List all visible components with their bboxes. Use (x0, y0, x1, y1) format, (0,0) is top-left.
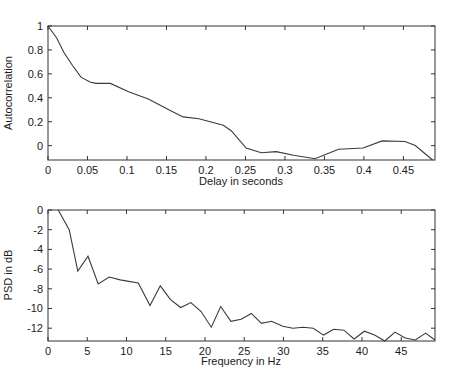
x-tick-label: 35 (317, 345, 329, 357)
y-tick-label: -8 (33, 283, 43, 295)
x-tick-label: 45 (395, 345, 407, 357)
y-tick-label: -10 (27, 302, 43, 314)
psd-line (58, 210, 435, 341)
x-axis-ticks: 00.050.10.150.20.250.30.350.40.45 (45, 26, 414, 176)
x-tick-label: 15 (160, 345, 172, 357)
y-tick-label: 0.6 (28, 68, 43, 80)
x-tick-label: 0.15 (156, 164, 177, 176)
y-axis-label: PSD in dB (2, 250, 14, 301)
x-tick-label: 0.05 (77, 164, 98, 176)
y-tick-label: 0.4 (28, 92, 43, 104)
plot-frame (48, 210, 435, 341)
x-tick-label: 5 (84, 345, 90, 357)
y-axis-label: Autocorrelation (2, 56, 14, 130)
x-tick-label: 0.1 (119, 164, 134, 176)
y-tick-label: 0.2 (28, 116, 43, 128)
y-tick-label: 1 (37, 20, 43, 32)
y-tick-label: -12 (27, 322, 43, 334)
y-tick-label: 0.8 (28, 44, 43, 56)
x-tick-label: 0 (45, 345, 51, 357)
autocorrelation-line (48, 26, 433, 160)
x-tick-label: 0.45 (393, 164, 414, 176)
y-axis-ticks: 0-2-4-6-8-10-12 (27, 204, 435, 334)
plot-frame (48, 26, 435, 160)
autocorrelation-plot: 00.050.10.150.20.250.30.350.40.45 00.20.… (2, 20, 435, 187)
x-tick-label: 10 (120, 345, 132, 357)
figure: 00.050.10.150.20.250.30.350.40.45 00.20.… (0, 0, 456, 382)
psd-plot: 051015202530354045 0-2-4-6-8-10-12 Frequ… (2, 204, 435, 367)
x-tick-label: 0.4 (356, 164, 371, 176)
y-tick-label: -6 (33, 263, 43, 275)
x-axis-label: Delay in seconds (199, 175, 283, 187)
y-tick-label: -4 (33, 243, 43, 255)
y-tick-label: 0 (37, 204, 43, 216)
y-axis-ticks: 00.20.40.60.81 (28, 20, 435, 152)
x-axis-label: Frequency in Hz (201, 355, 281, 367)
x-tick-label: 0 (45, 164, 51, 176)
x-tick-label: 40 (356, 345, 368, 357)
x-tick-label: 0.35 (314, 164, 335, 176)
y-tick-label: -2 (33, 224, 43, 236)
y-tick-label: 0 (37, 140, 43, 152)
